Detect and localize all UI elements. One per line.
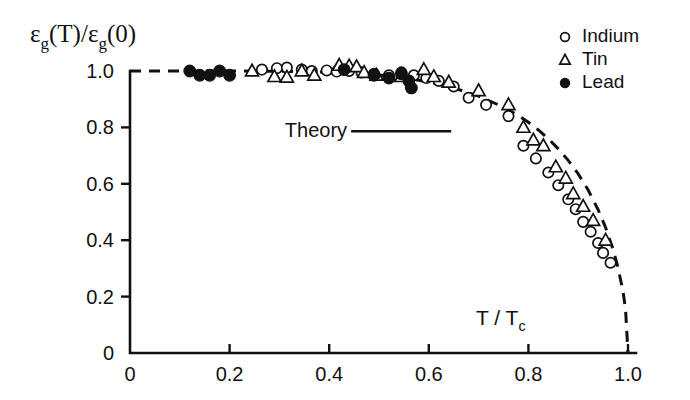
y-tick-label: 0.8: [86, 116, 114, 138]
theory-label: Theory: [285, 119, 347, 141]
marker-tin: [502, 98, 515, 110]
legend-label-tin: Tin: [582, 48, 608, 69]
y-tick-label: 1.0: [86, 60, 114, 82]
legend-marker-tin: [560, 54, 570, 64]
marker-tin: [559, 171, 572, 183]
marker-tin: [417, 63, 430, 75]
marker-indium: [585, 227, 595, 237]
marker-tin: [527, 133, 540, 145]
y-tick-label: 0: [103, 342, 114, 364]
theory-curve: [130, 71, 628, 353]
marker-indium: [503, 111, 513, 121]
legend-label-indium: Indium: [582, 25, 639, 46]
marker-lead: [383, 72, 395, 84]
marker-indium: [257, 64, 267, 74]
legend-label-lead: Lead: [582, 71, 624, 92]
marker-lead: [224, 69, 236, 81]
x-tick-label: 0.8: [514, 363, 542, 385]
x-tick-label: 0.4: [315, 363, 343, 385]
x-axis-label: T / Tc: [476, 306, 526, 334]
marker-indium: [531, 153, 541, 163]
marker-indium: [605, 258, 615, 268]
axis-spines: [130, 71, 636, 353]
marker-tin: [472, 84, 485, 96]
legend-marker-indium: [561, 33, 570, 42]
marker-indium: [598, 248, 608, 258]
marker-lead: [338, 64, 350, 76]
legend-marker-lead: [560, 78, 569, 87]
marker-tin: [549, 160, 562, 172]
y-axis-label: εg(T)/εg(0): [30, 20, 136, 53]
y-tick-label: 0.6: [86, 173, 114, 195]
x-tick-label: 1.0: [614, 363, 642, 385]
y-tick-label: 0.4: [86, 229, 114, 251]
legend: IndiumTinLead: [560, 25, 639, 92]
marker-lead: [406, 82, 418, 94]
chart-svg: 00.20.40.60.81.000.20.40.60.81.0Theoryεg…: [0, 0, 690, 400]
marker-indium: [481, 100, 491, 110]
y-tick-label: 0.2: [86, 286, 114, 308]
series-tin: [246, 59, 613, 245]
series-indium: [257, 62, 616, 268]
x-tick-label: 0.6: [415, 363, 443, 385]
marker-lead: [368, 69, 380, 81]
marker-tin: [567, 187, 580, 199]
x-tick-label: 0: [124, 363, 135, 385]
marker-indium: [322, 65, 332, 75]
energy-gap-chart: 00.20.40.60.81.000.20.40.60.81.0Theoryεg…: [0, 0, 690, 400]
x-tick-label: 0.2: [216, 363, 244, 385]
